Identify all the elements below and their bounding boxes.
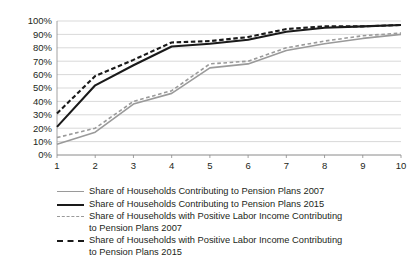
legend-line-swatch: [57, 199, 84, 211]
x-axis-tick-label: 8: [322, 160, 327, 171]
x-axis-tick-label: 3: [131, 160, 136, 171]
x-axis-tick-label: 2: [93, 160, 98, 171]
y-axis-tick-label: 20%: [33, 123, 53, 134]
legend-line-swatch: [57, 211, 84, 223]
legend-item-label: Share of Households Contributing to Pens…: [89, 186, 324, 198]
y-axis-tick-label: 50%: [33, 82, 53, 93]
y-axis-tick-labels: 0%10%20%30%40%50%60%70%80%90%100%: [28, 15, 53, 160]
x-axis-tick-label: 10: [396, 160, 407, 171]
legend-item: Share of Households with Positive Labor …: [57, 235, 407, 258]
legend-line-swatch: [57, 235, 84, 247]
legend-item: Share of Households with Positive Labor …: [57, 211, 407, 234]
x-axis-tick-labels: 12345678910: [54, 155, 406, 171]
x-axis-tick-label: 7: [284, 160, 289, 171]
x-axis-tick-label: 4: [169, 160, 174, 171]
legend-item-label: Share of Households with Positive Labor …: [89, 211, 342, 234]
y-axis-tick-label: 80%: [33, 42, 53, 53]
series-line-4: [57, 25, 401, 113]
x-axis-tick-label: 6: [245, 160, 250, 171]
chart-legend: Share of Households Contributing to Pens…: [57, 186, 407, 259]
legend-item-label: Share of Households with Positive Labor …: [89, 235, 342, 258]
x-axis-tick-label: 5: [207, 160, 212, 171]
y-axis-tick-label: 30%: [33, 109, 53, 120]
data-series-group: [57, 25, 401, 144]
y-axis-tick-label: 60%: [33, 69, 53, 80]
series-line-1: [57, 34, 401, 144]
y-axis-tick-label: 10%: [33, 136, 53, 147]
y-axis-tick-label: 90%: [33, 29, 53, 40]
pension-participation-line-chart: 0%10%20%30%40%50%60%70%80%90%100% 123456…: [0, 0, 413, 261]
y-axis-tick-label: 40%: [33, 96, 53, 107]
legend-item-label: Share of Households Contributing to Pens…: [89, 199, 324, 211]
legend-item: Share of Households Contributing to Pens…: [57, 199, 407, 211]
y-axis-tick-label: 100%: [28, 15, 53, 26]
y-axis-tick-label: 0%: [38, 149, 52, 160]
y-axis-tick-label: 70%: [33, 56, 53, 67]
x-axis-tick-label: 9: [360, 160, 365, 171]
legend-line-swatch: [57, 186, 84, 198]
legend-item: Share of Households Contributing to Pens…: [57, 186, 407, 198]
x-axis-tick-label: 1: [54, 160, 59, 171]
